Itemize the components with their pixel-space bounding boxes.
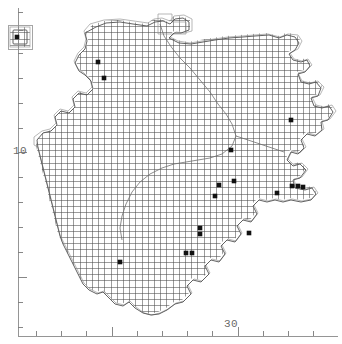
x-axis-label: 30 [224,318,238,330]
record-east-coast-2 [290,184,295,189]
record-south-4 [190,251,195,256]
record-midland-1 [217,183,222,188]
map-canvas [0,0,342,344]
record-nw-coast-1 [96,60,101,65]
record-south-2 [198,232,203,237]
record-east-coast-4 [301,185,306,190]
record-east-coast-3 [296,184,301,189]
record-south-3 [184,251,189,256]
y-axis-ticks [18,12,27,327]
distribution-map-figure: 10 30 [0,0,342,344]
record-central-east [229,148,234,153]
grid-lattice [0,0,342,344]
record-midland-2 [232,179,237,184]
record-ne-coast-1 [289,118,294,123]
record-east-coast-1 [275,191,280,196]
record-south-1 [198,226,203,231]
x-axis-ticks [36,327,313,336]
y-axis-label: 10 [13,145,27,157]
record-nw-coast-2 [102,76,107,81]
record-inset-island [15,35,20,40]
record-southwest-1 [118,260,123,265]
record-midland-3 [213,194,218,199]
record-southeast-1 [247,231,252,236]
